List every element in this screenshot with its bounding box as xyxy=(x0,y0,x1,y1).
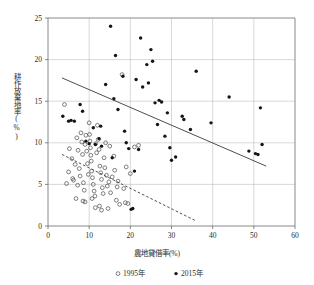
y-tick-label: 20 xyxy=(35,55,43,64)
y-tick-label: 0 xyxy=(38,222,42,231)
x-tick-label: 60 xyxy=(291,231,299,240)
grid-layer xyxy=(48,18,295,226)
y-tick-label: 10 xyxy=(35,138,43,147)
x-axis-title: 農地貸借率(%) xyxy=(134,248,181,258)
scatter-chart: 耕作放棄地率(%) 0102030405060 0510152025 農地貸借率… xyxy=(0,0,314,285)
series-1995-points xyxy=(63,73,141,212)
y-axis-tick-labels: 0510152025 xyxy=(35,14,43,231)
x-tick-label: 0 xyxy=(46,231,50,240)
y-tick-label: 25 xyxy=(35,14,43,23)
x-tick-label: 50 xyxy=(250,231,258,240)
plot-frame xyxy=(45,18,295,229)
x-tick-label: 10 xyxy=(85,231,93,240)
y-tick-label: 15 xyxy=(35,97,43,106)
legend-label: 2015年 xyxy=(181,268,204,278)
x-tick-label: 40 xyxy=(209,231,217,240)
chart-legend: 1995年2015年 xyxy=(116,268,204,278)
y-axis-title: 耕作放棄地率(%) xyxy=(6,72,20,141)
legend-marker-1995 xyxy=(116,272,120,276)
x-tick-label: 30 xyxy=(168,231,176,240)
x-tick-label: 20 xyxy=(127,231,135,240)
chart-svg: 0102030405060 0510152025 農地貸借率(%) 1995年2… xyxy=(0,0,314,285)
legend-marker-2015 xyxy=(174,272,177,275)
x-axis-tick-labels: 0102030405060 xyxy=(46,231,299,240)
y-tick-label: 5 xyxy=(38,180,42,189)
trend-lines xyxy=(62,78,266,221)
legend-label: 1995年 xyxy=(123,268,146,278)
